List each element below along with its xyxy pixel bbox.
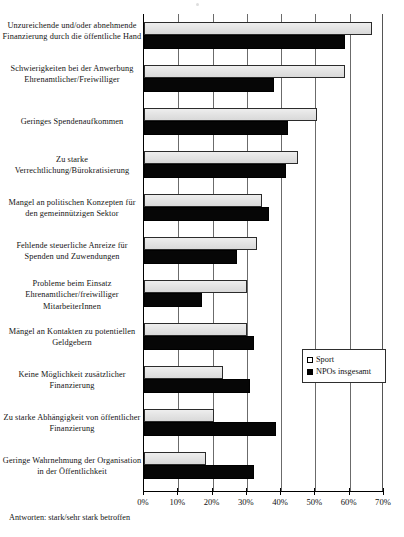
black-square-icon bbox=[307, 369, 313, 375]
bar-npos-insgesamt bbox=[144, 336, 254, 350]
chart-container: Unzureichende und/oder abnehmende Finanz… bbox=[0, 0, 404, 537]
white-square-icon bbox=[307, 357, 313, 363]
category-label: Geringe Wahrnehmung der Organisation in … bbox=[2, 455, 142, 478]
bar-sport bbox=[144, 323, 247, 336]
bar-sport bbox=[144, 237, 257, 250]
x-tick bbox=[314, 488, 315, 495]
bar-npos-insgesamt bbox=[144, 78, 274, 92]
category-label: Keine Möglichkeit zusätzlicher Finanzier… bbox=[2, 369, 142, 392]
bar-npos-insgesamt bbox=[144, 293, 202, 307]
chart-row: Geringe Wahrnehmung der Organisation in … bbox=[0, 444, 404, 487]
category-label: Mängel an Kontakten zu potentiellen Geld… bbox=[2, 326, 142, 349]
x-tick bbox=[246, 488, 247, 495]
legend-label: NPOs insgesamt bbox=[316, 366, 371, 378]
legend-label: Sport bbox=[316, 354, 334, 366]
bar-sport bbox=[144, 22, 372, 35]
category-label: Zu starke Abhängigkeit von öffentlicher … bbox=[2, 412, 142, 435]
chart-row: Geringes Spendenaufkommen bbox=[0, 100, 404, 143]
chart-row: Zu starke Verrechtlichung/Bürokratisieru… bbox=[0, 143, 404, 186]
bar-npos-insgesamt bbox=[144, 207, 269, 221]
x-tick bbox=[280, 488, 281, 495]
x-tick bbox=[349, 488, 350, 495]
bar-npos-insgesamt bbox=[144, 164, 286, 178]
bar-npos-insgesamt bbox=[144, 35, 345, 49]
bar-sport bbox=[144, 280, 247, 293]
chart-row: Schwierigkeiten bei der Anwerbung Ehrena… bbox=[0, 57, 404, 100]
chart-row: Unzureichende und/oder abnehmende Finanz… bbox=[0, 14, 404, 57]
bar-sport bbox=[144, 65, 345, 78]
x-tick bbox=[143, 488, 144, 495]
chart-row: Mangel an politischen Konzepten für den … bbox=[0, 186, 404, 229]
legend-item-sport: Sport bbox=[307, 354, 382, 366]
scan-speck bbox=[196, 3, 199, 6]
bar-sport bbox=[144, 452, 206, 465]
category-label: Unzureichende und/oder abnehmende Finanz… bbox=[2, 20, 142, 43]
category-label: Probleme beim Einsatz Ehrenamtlicher/fre… bbox=[2, 278, 142, 312]
chart-row: Zu starke Abhängigkeit von öffentlicher … bbox=[0, 401, 404, 444]
chart-rows: Unzureichende und/oder abnehmende Finanz… bbox=[0, 0, 404, 477]
chart-legend: Sport NPOs insgesamt bbox=[302, 349, 386, 383]
bar-sport bbox=[144, 409, 214, 422]
bar-npos-insgesamt bbox=[144, 250, 237, 264]
chart-footnote: Antworten: stark/sehr stark betroffen bbox=[9, 513, 130, 522]
legend-item-npos-insgesamt: NPOs insgesamt bbox=[307, 366, 382, 378]
category-label: Mangel an politischen Konzepten für den … bbox=[2, 197, 142, 220]
category-label: Fehlende steuerliche Anreize für Spenden… bbox=[2, 240, 142, 263]
bar-sport bbox=[144, 366, 223, 379]
category-label: Geringes Spendenaufkommen bbox=[2, 116, 142, 127]
category-label: Zu starke Verrechtlichung/Bürokratisieru… bbox=[2, 154, 142, 177]
bar-sport bbox=[144, 194, 262, 207]
bar-sport bbox=[144, 151, 298, 164]
bar-npos-insgesamt bbox=[144, 465, 254, 479]
bar-npos-insgesamt bbox=[144, 379, 250, 393]
chart-row: Fehlende steuerliche Anreize für Spenden… bbox=[0, 229, 404, 272]
bar-npos-insgesamt bbox=[144, 121, 288, 135]
bar-npos-insgesamt bbox=[144, 422, 276, 436]
bar-sport bbox=[144, 108, 317, 121]
x-tick bbox=[383, 488, 384, 495]
x-tick bbox=[212, 488, 213, 495]
x-axis bbox=[143, 491, 383, 492]
x-tick bbox=[177, 488, 178, 495]
chart-row: Probleme beim Einsatz Ehrenamtlicher/fre… bbox=[0, 272, 404, 315]
category-label: Schwierigkeiten bei der Anwerbung Ehrena… bbox=[2, 63, 142, 86]
x-tick-label: 70% bbox=[363, 497, 403, 507]
